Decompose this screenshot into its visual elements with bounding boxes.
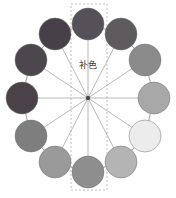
- color-swatch-2-o-clock[interactable]: [129, 44, 161, 76]
- color-swatch-8-o-clock[interactable]: [15, 120, 47, 152]
- color-swatch-6-o-clock[interactable]: [72, 156, 104, 188]
- color-swatch-1-o-clock[interactable]: [105, 18, 137, 50]
- color-wheel-canvas: 补色: [0, 0, 176, 198]
- color-swatch-12-o-clock[interactable]: [72, 8, 104, 40]
- wheel-center-point: [86, 96, 90, 100]
- color-swatch-10-o-clock[interactable]: [15, 44, 47, 76]
- color-wheel-figure: 补色: [0, 0, 176, 198]
- color-swatch-9-o-clock[interactable]: [6, 82, 38, 114]
- color-swatch-7-o-clock[interactable]: [39, 146, 71, 178]
- complementary-color-label: 补色: [79, 59, 97, 70]
- color-swatch-11-o-clock[interactable]: [39, 18, 71, 50]
- color-swatch-3-o-clock[interactable]: [138, 82, 170, 114]
- color-swatch-4-o-clock[interactable]: [129, 120, 161, 152]
- color-swatch-5-o-clock[interactable]: [105, 146, 137, 178]
